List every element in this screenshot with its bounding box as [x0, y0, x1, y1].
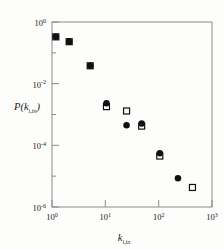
data-point-filled-circle — [123, 122, 130, 129]
data-point-filled-circle — [66, 38, 73, 45]
data-point-open-square — [124, 108, 130, 114]
scatter-plot-figure: 100 10-2 10-4 10-6 100 101 102 103 P(ki,… — [0, 0, 224, 249]
data-point-filled-circle — [103, 100, 110, 107]
y-axis-label: P(ki,in) — [13, 101, 40, 114]
data-point-filled-circle — [53, 34, 60, 41]
data-point-filled-circle — [157, 150, 164, 157]
data-point-filled-circle — [175, 175, 182, 182]
data-point-filled-circle — [87, 63, 94, 70]
data-point-filled-circle — [138, 120, 145, 127]
data-point-open-square — [189, 184, 195, 190]
